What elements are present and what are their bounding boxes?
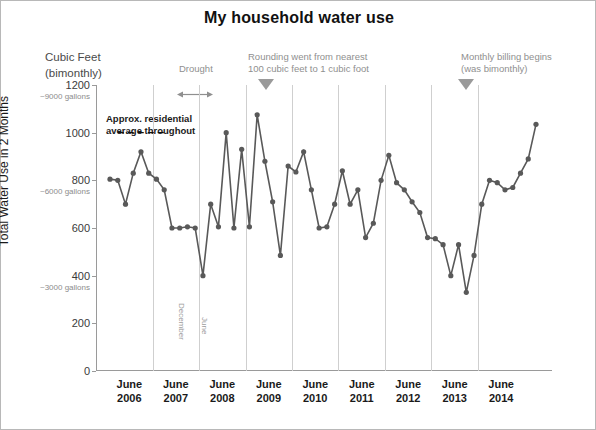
data-point <box>293 169 298 174</box>
y-tick-label: 1200 <box>66 79 90 91</box>
data-point <box>193 225 198 230</box>
data-point <box>386 153 391 158</box>
data-point <box>216 224 221 229</box>
data-point <box>131 171 136 176</box>
y-tick-label: 1000 <box>66 127 90 139</box>
data-point <box>495 180 500 185</box>
data-point <box>471 253 476 258</box>
gallon-equivalent-label: ~6000 gallons <box>40 187 90 196</box>
data-point <box>169 225 174 230</box>
data-point <box>262 159 267 164</box>
data-point <box>348 202 353 207</box>
annotation-billing-line1: Monthly billing begins <box>461 51 552 62</box>
data-point <box>309 187 314 192</box>
data-point <box>301 149 306 154</box>
data-point <box>324 224 329 229</box>
data-point <box>115 178 120 183</box>
y-tick-label: 400 <box>72 270 90 282</box>
x-tick-label: June2011 <box>349 377 375 405</box>
y-tick-label: 600 <box>72 222 90 234</box>
y-unit-label: Cubic Feet (bimonthly) <box>45 49 102 81</box>
annotation-drought-text: Drought <box>179 63 213 74</box>
data-point <box>487 178 492 183</box>
data-point <box>332 202 337 207</box>
data-point <box>231 225 236 230</box>
data-point <box>107 177 112 182</box>
data-point <box>409 199 414 204</box>
data-point <box>278 253 283 258</box>
data-point <box>417 210 422 215</box>
december-label: December <box>177 303 186 340</box>
annotation-rounding-line2: 100 cubic feet to 1 cubic foot <box>248 63 369 74</box>
data-point <box>526 156 531 161</box>
data-point <box>464 290 469 295</box>
data-point <box>394 180 399 185</box>
data-point <box>177 225 182 230</box>
data-point <box>239 147 244 152</box>
data-point <box>440 242 445 247</box>
data-point <box>402 187 407 192</box>
data-point <box>355 187 360 192</box>
data-point <box>363 235 368 240</box>
chart-page: My household water use Cubic Feet (bimon… <box>0 0 596 430</box>
x-tick-label: June2010 <box>302 377 328 405</box>
x-tick-label: June2014 <box>488 377 514 405</box>
data-point <box>200 273 205 278</box>
y-tick-mark <box>92 371 96 372</box>
data-point <box>340 168 345 173</box>
data-point <box>247 224 252 229</box>
x-tick-label: June2006 <box>117 377 143 405</box>
data-point <box>317 225 322 230</box>
data-point <box>123 202 128 207</box>
unit-label-line2: (bimonthly) <box>45 67 102 79</box>
water-use-series <box>96 85 552 371</box>
page-title: My household water use <box>1 9 596 27</box>
gallon-equivalent-label: ~3000 gallons <box>40 282 90 291</box>
data-point <box>138 149 143 154</box>
unit-label-line1: Cubic Feet <box>45 51 101 63</box>
y-tick-label: 0 <box>84 365 90 377</box>
x-tick-label: June2012 <box>395 377 421 405</box>
data-point <box>286 163 291 168</box>
y-tick-label: 200 <box>72 317 90 329</box>
data-point <box>502 187 507 192</box>
annotation-billing-line2: (was bimonthly) <box>461 63 528 74</box>
plot-area: 020040060080010001200 ~9000 gallons~6000… <box>96 85 552 371</box>
data-point <box>510 185 515 190</box>
x-tick-label: June2007 <box>163 377 189 405</box>
annotation-rounding-line1: Rounding went from nearest <box>248 51 367 62</box>
data-point <box>185 224 190 229</box>
data-point <box>533 122 538 127</box>
y-axis-title: Total Water Use in 2 Months <box>0 96 11 246</box>
june-label: June <box>200 317 209 334</box>
series-line <box>110 115 536 293</box>
data-point <box>371 221 376 226</box>
x-tick-label: June2013 <box>442 377 468 405</box>
data-point <box>479 202 484 207</box>
data-point <box>255 112 260 117</box>
gallon-equivalent-label: ~9000 gallons <box>40 92 90 101</box>
data-point <box>433 236 438 241</box>
data-point <box>448 273 453 278</box>
x-tick-label: June2008 <box>209 377 235 405</box>
data-point <box>224 130 229 135</box>
data-point <box>208 202 213 207</box>
data-point <box>146 171 151 176</box>
data-point <box>378 178 383 183</box>
annotation-drought: Drought <box>179 63 213 75</box>
data-point <box>518 171 523 176</box>
data-point <box>425 235 430 240</box>
y-tick-label: 800 <box>72 174 90 186</box>
annotation-billing: Monthly billing begins (was bimonthly) <box>461 51 552 75</box>
data-point <box>162 187 167 192</box>
annotation-rounding: Rounding went from nearest 100 cubic fee… <box>248 51 369 75</box>
data-point <box>270 199 275 204</box>
data-point <box>154 177 159 182</box>
x-tick-label: June2009 <box>256 377 282 405</box>
data-point <box>456 242 461 247</box>
